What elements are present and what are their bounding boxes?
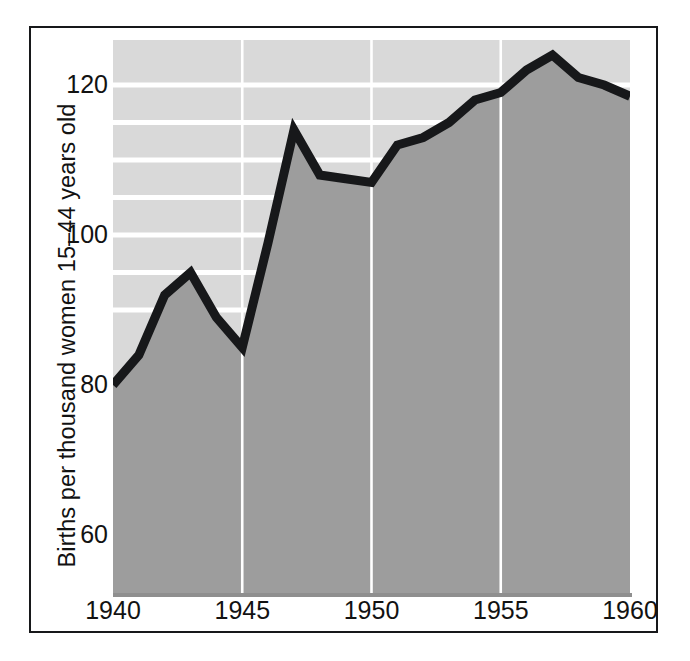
chart-figure: Births per thousand women 15–44 years ol… bbox=[0, 0, 690, 661]
x-tick-label: 1950 bbox=[327, 598, 417, 623]
x-tick-label: 1940 bbox=[68, 598, 158, 623]
plot-area bbox=[113, 40, 630, 595]
x-tick-label: 1955 bbox=[456, 598, 546, 623]
x-axis-tick-labels: 1940 1945 1950 1955 1960 bbox=[0, 598, 690, 638]
x-tick-label: 1945 bbox=[197, 598, 287, 623]
chart-svg bbox=[113, 40, 630, 595]
y-tick-label: 120 bbox=[50, 72, 108, 97]
y-tick-label: 60 bbox=[50, 522, 108, 547]
x-tick-label: 1960 bbox=[585, 598, 675, 623]
y-axis-tick-labels: 120 100 80 60 bbox=[42, 0, 108, 661]
y-tick-label: 100 bbox=[50, 222, 108, 247]
y-tick-label: 80 bbox=[50, 372, 108, 397]
